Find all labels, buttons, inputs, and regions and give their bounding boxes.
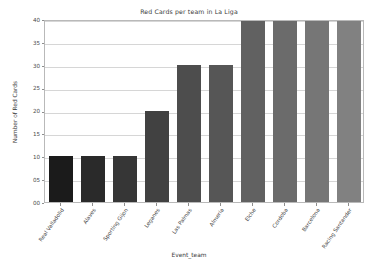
bar	[305, 20, 328, 202]
y-tick-label: 00	[18, 200, 40, 206]
x-tick-mark	[188, 203, 189, 206]
bar	[241, 20, 264, 202]
y-tick-label: 25	[18, 85, 40, 91]
y-tick-label: 35	[18, 40, 40, 46]
x-tick-mark	[252, 203, 253, 206]
y-tick-label: 05	[18, 177, 40, 183]
bar	[273, 20, 296, 202]
y-tick-label: 40	[18, 17, 40, 23]
y-tick-label: 30	[18, 63, 40, 69]
bar	[337, 20, 360, 202]
bar	[49, 156, 72, 202]
chart-title: Red Cards per team in La Liga	[0, 8, 378, 15]
x-tick-mark	[124, 203, 125, 206]
bar	[145, 111, 168, 203]
x-axis-title: Event_team	[0, 252, 378, 258]
plot-area	[44, 20, 364, 203]
x-tick-mark	[348, 203, 349, 206]
y-tick-mark	[42, 203, 45, 204]
bar	[113, 156, 136, 202]
x-tick-mark	[92, 203, 93, 206]
x-tick-mark	[284, 203, 285, 206]
y-tick-label: 15	[18, 131, 40, 137]
chart-figure: Red Cards per team in La Liga Number of …	[0, 0, 378, 270]
bar	[209, 65, 232, 202]
x-tick-mark	[316, 203, 317, 206]
bar	[81, 156, 104, 202]
bar-series	[45, 21, 363, 202]
y-tick-label: 20	[18, 108, 40, 114]
x-tick-mark	[156, 203, 157, 206]
y-tick-label: 10	[18, 154, 40, 160]
x-tick-mark	[220, 203, 221, 206]
x-tick-mark	[60, 203, 61, 206]
bar	[177, 65, 200, 202]
